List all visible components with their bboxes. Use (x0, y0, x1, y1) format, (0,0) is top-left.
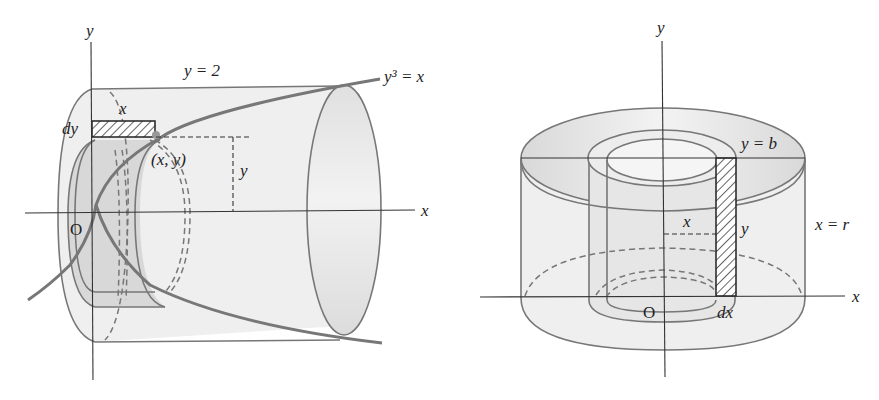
left-x-axis-label: x (420, 201, 429, 220)
point-marker (152, 131, 160, 139)
horizontal-strip (92, 121, 155, 137)
curve-label: y³ = x (382, 67, 425, 86)
right-origin-label: O (643, 303, 655, 322)
inner-top-ellipse-inner (607, 139, 717, 181)
left-origin-label: O (70, 220, 82, 239)
diagram-canvas: y x O y = 2 y³ = x x dy (x, y) y (0, 0, 879, 400)
top-line-label-b: y = b (739, 134, 777, 153)
strip-width-label: dy (62, 119, 79, 138)
strip-dx-label: dx (717, 303, 734, 322)
top-line-label: y = 2 (182, 61, 221, 80)
strip-height-label: y (739, 219, 749, 238)
strip-length-label: x (118, 99, 127, 118)
radius-label: x (682, 212, 691, 231)
height-label: y (238, 161, 248, 180)
right-figure: y x O y = b x = r x y dx (480, 18, 860, 377)
bottom-edge-line (95, 340, 340, 342)
left-y-axis-label: y (84, 21, 94, 40)
left-figure: y x O y = 2 y³ = x x dy (x, y) y (25, 21, 429, 380)
point-label: (x, y) (151, 150, 186, 169)
right-y-axis-label: y (655, 18, 665, 37)
outer-radius-label: x = r (814, 215, 850, 234)
vertical-strip (716, 158, 736, 296)
right-x-axis-label: x (851, 287, 860, 306)
